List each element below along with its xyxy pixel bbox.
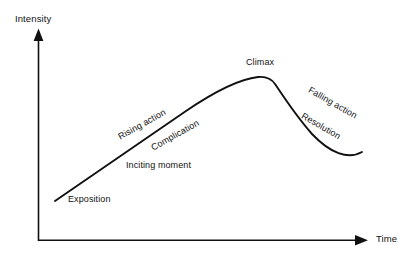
annotation-exposition: Exposition bbox=[68, 194, 111, 205]
annotation-inciting-moment: Inciting moment bbox=[126, 160, 191, 171]
annotation-climax: Climax bbox=[246, 57, 274, 68]
freytag-pyramid-diagram: Intensity Time Exposition Inciting momen… bbox=[0, 0, 417, 259]
x-axis-label: Time bbox=[376, 233, 397, 244]
y-axis-arrowhead-icon bbox=[34, 29, 44, 42]
y-axis-label: Intensity bbox=[15, 13, 51, 24]
x-axis-arrowhead-icon bbox=[355, 235, 368, 245]
plot-canvas bbox=[0, 0, 417, 259]
